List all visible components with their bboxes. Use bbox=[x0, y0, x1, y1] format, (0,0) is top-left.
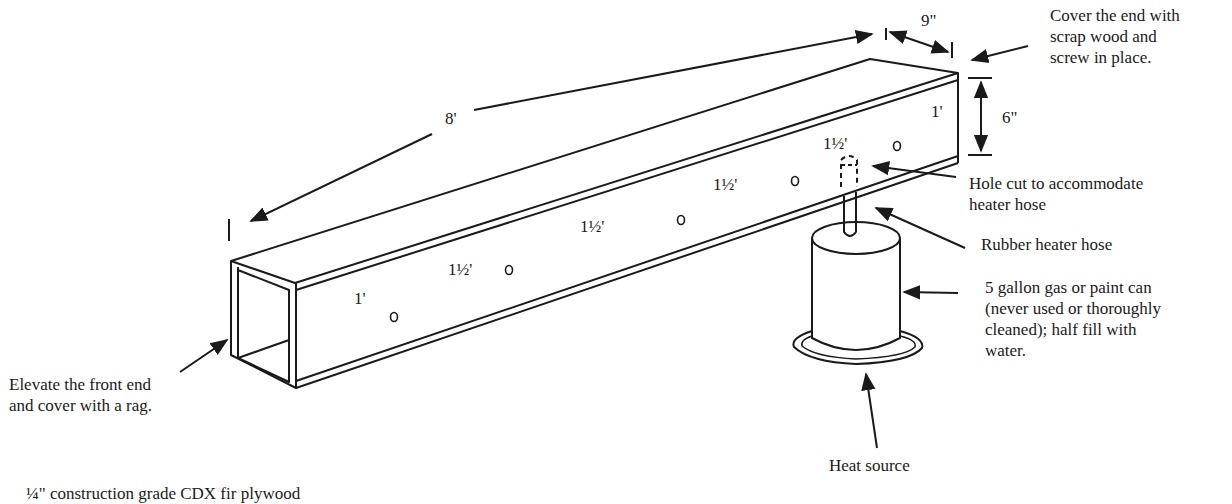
dim-width-label: 9" bbox=[921, 10, 936, 31]
arrow-elevate bbox=[180, 340, 227, 372]
arrow-cover-end bbox=[972, 46, 1028, 60]
callout-gas-can-line: 5 gallon gas or paint can bbox=[985, 277, 1161, 298]
callout-rubber-hose: Rubber heater hose bbox=[981, 234, 1112, 255]
callout-hole-cut: Hole cut to accommodate heater hose bbox=[969, 173, 1143, 215]
callout-elevate-line: and cover with a rag. bbox=[9, 395, 152, 416]
box-top-face bbox=[231, 59, 958, 283]
callout-elevate: Elevate the front end and cover with a r… bbox=[9, 374, 152, 416]
callout-heat-source: Heat source bbox=[829, 455, 910, 476]
dim-9in-line bbox=[890, 32, 948, 52]
box-top-edge-inner bbox=[296, 80, 958, 290]
callout-cover-end-line: Cover the end with bbox=[1050, 5, 1180, 26]
spacing-label-1: 1' bbox=[354, 288, 366, 309]
dim-length-label: 8' bbox=[445, 108, 457, 129]
callout-gas-can: 5 gallon gas or paint can (never used or… bbox=[985, 277, 1161, 361]
callout-gas-can-line: water. bbox=[985, 340, 1161, 361]
box-bottom-edge bbox=[296, 163, 958, 388]
box-front-opening bbox=[238, 267, 289, 382]
callout-hole-cut-line: heater hose bbox=[969, 194, 1143, 215]
dim-8ft-line-left bbox=[251, 134, 432, 221]
hole-5 bbox=[894, 142, 901, 151]
box-bottom-edge-inner bbox=[296, 156, 958, 381]
callout-cover-end: Cover the end with scrap wood and screw … bbox=[1050, 5, 1180, 68]
callout-elevate-line: Elevate the front end bbox=[9, 374, 152, 395]
arrow-gas-can bbox=[904, 292, 958, 293]
callout-cover-end-line: scrap wood and bbox=[1050, 26, 1180, 47]
callout-gas-can-line: (never used or thoroughly bbox=[985, 298, 1161, 319]
spacing-label-6: 1' bbox=[931, 101, 943, 122]
callout-hole-cut-line: Hole cut to accommodate bbox=[969, 173, 1143, 194]
box-front-inner-floor bbox=[238, 340, 289, 358]
spacing-label-4: 1½' bbox=[713, 174, 737, 195]
hole-4 bbox=[792, 177, 799, 186]
hole-3 bbox=[678, 216, 685, 225]
arrow-heat-source bbox=[866, 374, 877, 448]
callout-gas-can-line: cleaned); half fill with bbox=[985, 319, 1161, 340]
dim-height-label: 6" bbox=[1002, 107, 1017, 128]
hose-hidden-dashed bbox=[841, 156, 857, 187]
spacing-label-5: 1½' bbox=[823, 133, 847, 154]
spacing-label-3: 1½' bbox=[580, 216, 604, 237]
dim-8ft-line-right bbox=[474, 34, 872, 110]
hole-1 bbox=[391, 313, 398, 322]
material-note: ¼" construction grade CDX fir plywood bbox=[26, 483, 300, 504]
callout-cover-end-line: screw in place. bbox=[1050, 47, 1180, 68]
spacing-label-2: 1½' bbox=[448, 259, 472, 280]
hole-2 bbox=[506, 266, 513, 275]
